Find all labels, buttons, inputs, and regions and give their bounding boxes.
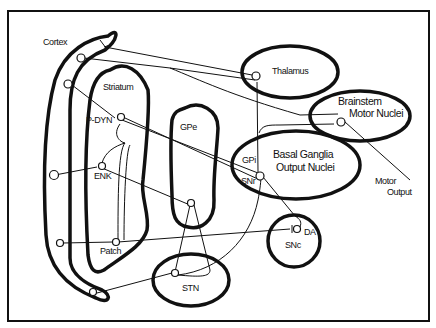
bg-output-label-2: Output Nuclei xyxy=(276,162,334,173)
cortex-neuron-4 xyxy=(57,240,64,247)
basal-ganglia-diagram: Cortex Striatum P-DYN ENK Patch GPe Thal… xyxy=(0,0,436,328)
da-label: DA xyxy=(304,228,316,237)
patch-neuron xyxy=(113,239,120,246)
brainstem-label-1: Brainstem xyxy=(338,96,382,107)
enk-label: ENK xyxy=(94,172,111,181)
snr-label: SNr xyxy=(241,177,255,186)
brainstem-label-2: Motor Nuclei xyxy=(349,108,403,119)
gpi-snr-neuron xyxy=(256,172,264,180)
stn-region xyxy=(153,254,229,306)
cortex-label: Cortex xyxy=(43,38,67,47)
cortex-neuron-1 xyxy=(77,54,85,62)
gpi-label: GPi xyxy=(242,156,256,165)
enk-neuron xyxy=(99,163,106,170)
motor-output-label-2: Output xyxy=(387,188,412,197)
gpe-neuron xyxy=(188,200,195,207)
bg-output-label-1: Basal Ganglia xyxy=(273,149,333,160)
stn-neuron xyxy=(172,270,179,277)
brainstem-neuron xyxy=(337,118,345,126)
stn-label: STN xyxy=(182,284,199,293)
p-dyn-neuron xyxy=(118,114,125,121)
patch-label: Patch xyxy=(100,247,121,256)
gpe-label: GPe xyxy=(180,123,197,132)
p-dyn-label: P-DYN xyxy=(86,116,112,125)
da-neuron xyxy=(294,226,301,233)
cortex-neuron-5 xyxy=(90,289,97,296)
thalamus-neuron xyxy=(252,72,260,80)
cortex-neuron-3 xyxy=(50,171,59,180)
striatum-label: Striatum xyxy=(103,83,133,92)
diagram-canvas xyxy=(0,0,436,328)
thalamus-label: Thalamus xyxy=(272,67,308,76)
cortex-neuron-2 xyxy=(64,80,72,88)
motor-output-label-1: Motor xyxy=(375,177,396,186)
snc-label: SNc xyxy=(285,241,301,250)
